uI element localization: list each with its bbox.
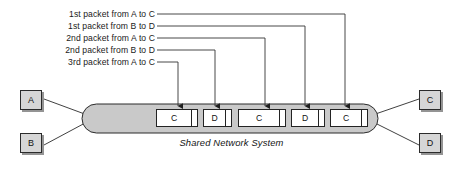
callout-label-4: 2nd packet from B to D — [0, 45, 155, 55]
packet-trailer-cell — [361, 110, 367, 126]
callout-label-5: 3rd packet from A to C — [0, 57, 155, 67]
packet-destination-label: D — [204, 110, 225, 126]
callout-label-1: 1st packet from A to C — [0, 9, 155, 19]
node-box-c: C — [419, 90, 441, 110]
packet-destination-label: C — [331, 110, 361, 126]
packet-trailer-cell — [225, 110, 231, 126]
packet-1: C — [156, 109, 198, 127]
packet-5: C — [330, 109, 368, 127]
packet-2: D — [203, 109, 232, 127]
callout-leader-lines — [157, 14, 345, 106]
packet-destination-label: C — [157, 110, 191, 126]
node-box-a: A — [20, 90, 42, 110]
packet-destination-label: C — [239, 110, 279, 126]
diagram-canvas: 1st packet from A to C1st packet from B … — [0, 0, 463, 171]
bus-caption: Shared Network System — [0, 137, 463, 148]
packet-trailer-cell — [191, 110, 197, 126]
packet-4: D — [291, 109, 325, 127]
callout-label-3: 2nd packet from A to C — [0, 33, 155, 43]
packet-destination-label: D — [292, 110, 318, 126]
packet-3: C — [238, 109, 286, 127]
callout-label-2: 1st packet from B to D — [0, 21, 155, 31]
packet-trailer-cell — [318, 110, 324, 126]
packet-trailer-cell — [279, 110, 285, 126]
